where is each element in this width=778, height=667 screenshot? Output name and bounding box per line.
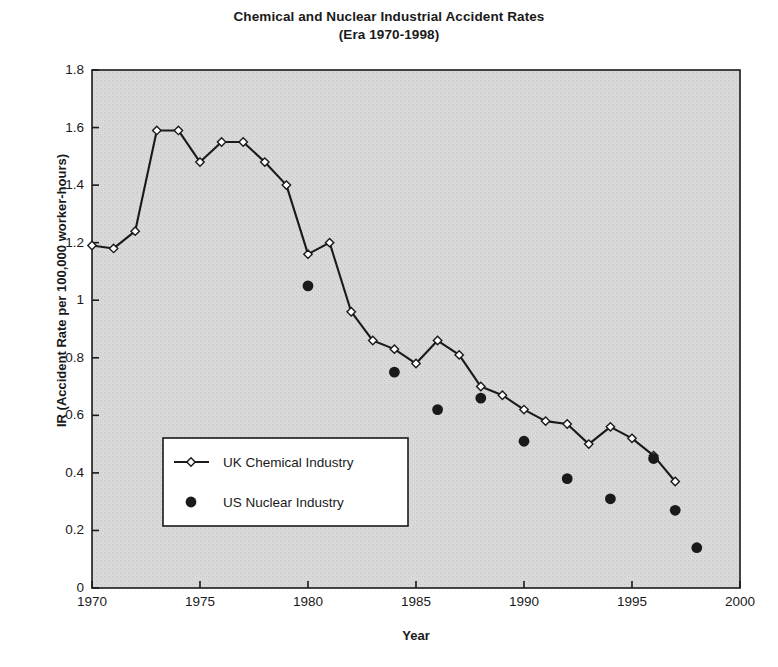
legend-label: US Nuclear Industry — [223, 495, 344, 510]
y-axis-label: IR (Accident Rate per 100,000 worker-hou… — [54, 91, 69, 491]
y-tick-label: 1.8 — [38, 63, 84, 77]
y-tick-label: 0 — [38, 581, 84, 595]
y-tick-label: 0.4 — [38, 466, 84, 480]
y-tick-label: 0.8 — [38, 351, 84, 365]
y-tick-label: 0.2 — [38, 523, 84, 537]
chart-legend[interactable]: UK Chemical IndustryUS Nuclear Industry — [163, 438, 408, 526]
x-tick-label: 1985 — [386, 595, 446, 609]
x-tick-label: 1990 — [494, 595, 554, 609]
x-tick-label: 1980 — [278, 595, 338, 609]
legend-label: UK Chemical Industry — [223, 455, 354, 470]
y-tick-label: 1 — [38, 293, 84, 307]
x-tick-label: 1975 — [170, 595, 230, 609]
chart-title: Chemical and Nuclear Industrial Accident… — [0, 8, 778, 26]
x-tick-label: 1970 — [62, 595, 122, 609]
y-tick-label: 1.6 — [38, 121, 84, 135]
chart-subtitle: (Era 1970-1998) — [0, 26, 778, 44]
plot-canvas: UK Chemical IndustryUS Nuclear Industry — [0, 0, 778, 667]
chart-title-block: Chemical and Nuclear Industrial Accident… — [0, 8, 778, 44]
x-tick-label: 2000 — [710, 595, 770, 609]
y-tick-label: 0.6 — [38, 408, 84, 422]
chart-figure: Chemical and Nuclear Industrial Accident… — [0, 0, 778, 667]
x-axis-label: Year — [92, 628, 740, 643]
x-tick-label: 1995 — [602, 595, 662, 609]
y-tick-label: 1.4 — [38, 178, 84, 192]
y-tick-label: 1.2 — [38, 236, 84, 250]
